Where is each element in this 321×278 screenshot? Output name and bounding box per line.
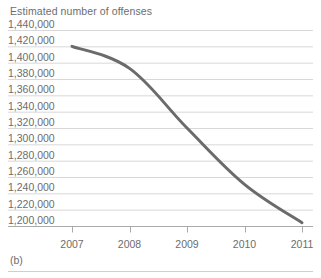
figure-caption: (b) [10, 254, 23, 266]
x-axis-tick-label: 2010 [233, 238, 256, 250]
x-axis-tick-label: 2008 [118, 238, 141, 250]
bottom-divider [8, 271, 313, 272]
y-axis-tick-label: 1,300,000 [8, 132, 55, 144]
y-axis-tick-label: 1,220,000 [8, 198, 55, 210]
data-series-group [72, 46, 302, 222]
y-axis-tick-label: 1,280,000 [8, 149, 55, 161]
y-axis-tick-label: 1,420,000 [8, 34, 55, 46]
y-axis-tick-label: 1,440,000 [8, 18, 55, 30]
y-axis-tick-label: 1,200,000 [8, 214, 55, 226]
x-axis-group [73, 227, 303, 233]
y-axis-tick-label: 1,320,000 [8, 116, 55, 128]
x-axis-tick-label: 2009 [175, 238, 198, 250]
y-axis-tick-label: 1,260,000 [8, 165, 55, 177]
y-axis-tick-label: 1,240,000 [8, 181, 55, 193]
data-line [72, 46, 302, 222]
x-axis-tick-label: 2007 [60, 238, 83, 250]
y-axis-tick-label: 1,340,000 [8, 100, 55, 112]
chart-title: Estimated number of offenses [10, 5, 152, 17]
y-axis-tick-label: 1,360,000 [8, 83, 55, 95]
y-axis-tick-label: 1,400,000 [8, 51, 55, 63]
y-axis-tick-label: 1,380,000 [8, 67, 55, 79]
x-axis-tick-label: 2011 [291, 238, 314, 250]
figure-panel: Estimated number of offenses 1,440,0001,… [0, 0, 321, 278]
